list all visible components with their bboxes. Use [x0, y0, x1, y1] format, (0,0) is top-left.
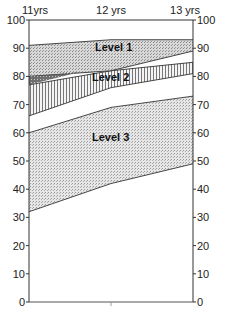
x-label: 11yrs: [22, 4, 49, 16]
y-tick-left: 90: [13, 42, 25, 54]
y-tick-right: 60: [197, 127, 209, 139]
y-tick-left: 20: [13, 240, 25, 252]
y-tick-right: 50: [197, 155, 209, 167]
y-tick-right: 70: [197, 99, 209, 111]
y-tick-right: 40: [197, 183, 209, 195]
y-tick-left: 80: [13, 70, 25, 82]
x-label: 12 yrs: [96, 4, 126, 16]
y-tick-right: 90: [197, 42, 209, 54]
band-level-3: [29, 96, 193, 212]
y-tick-left: 60: [13, 127, 25, 139]
y-tick-right: 0: [197, 296, 203, 308]
y-tick-left: 40: [13, 183, 25, 195]
y-tick-right: 30: [197, 211, 209, 223]
level-1-label: Level 1: [95, 41, 132, 53]
y-tick-left: 50: [13, 155, 25, 167]
y-tick-left: 30: [13, 211, 25, 223]
y-tick-right: 80: [197, 70, 209, 82]
y-tick-left: 70: [13, 99, 25, 111]
y-tick-right: 10: [197, 268, 209, 280]
y-tick-left: 0: [19, 296, 25, 308]
y-tick-left: 10: [13, 268, 25, 280]
x-label: 13 yrs: [170, 4, 200, 16]
y-tick-right: 20: [197, 240, 209, 252]
bands: [29, 40, 193, 212]
level-2-label: Level 2: [92, 71, 129, 83]
level-3-label: Level 3: [92, 131, 129, 143]
